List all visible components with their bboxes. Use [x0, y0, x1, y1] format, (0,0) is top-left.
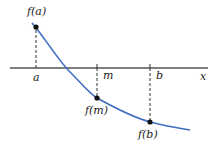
point-fa: [33, 24, 38, 29]
label-fb: f(b): [137, 128, 158, 141]
bisection-diagram: f(a) a m b x f(m) f(b): [0, 0, 219, 148]
label-fm: f(m): [84, 104, 108, 117]
point-fb: [147, 119, 152, 124]
label-x-axis: x: [200, 70, 207, 83]
label-m: m: [103, 69, 113, 82]
label-b: b: [156, 69, 163, 82]
point-fm: [94, 95, 99, 100]
label-fa: f(a): [26, 5, 46, 18]
label-a: a: [33, 71, 40, 84]
